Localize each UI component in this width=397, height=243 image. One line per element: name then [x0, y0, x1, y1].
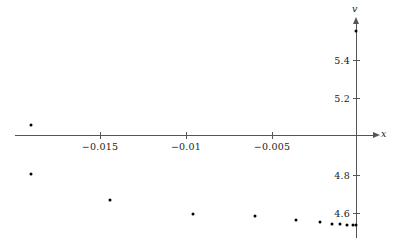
data-point — [346, 224, 349, 227]
data-point — [192, 213, 195, 216]
y-axis-label: v — [352, 3, 357, 14]
x-tick-mark — [100, 132, 101, 139]
x-tick-mark — [186, 132, 187, 139]
x-axis-line — [15, 135, 375, 136]
y-tick-label: 4.6 — [330, 208, 350, 219]
x-axis-label: x — [381, 128, 386, 139]
data-point — [109, 199, 112, 202]
scatter-plot-figure: x v −0.015 −0.01 −0.005 5.4 5.2 4.8 4.6 — [0, 0, 397, 243]
data-point — [30, 173, 33, 176]
data-point — [339, 223, 342, 226]
y-tick-label: 5.4 — [330, 55, 350, 66]
y-tick-label: 5.2 — [330, 93, 350, 104]
x-tick-label: −0.005 — [254, 141, 290, 152]
y-tick-mark — [353, 98, 360, 99]
data-point — [331, 223, 334, 226]
y-axis-line — [356, 22, 357, 238]
y-axis-arrowhead — [353, 17, 359, 24]
y-tick-label: 4.8 — [330, 170, 350, 181]
data-point — [355, 224, 358, 227]
x-tick-label: −0.01 — [171, 141, 201, 152]
data-point — [295, 219, 298, 222]
y-tick-mark — [353, 213, 360, 214]
data-point — [30, 124, 33, 127]
y-tick-mark — [353, 60, 360, 61]
x-axis-arrowhead — [373, 132, 380, 138]
data-point — [319, 221, 322, 224]
x-tick-mark — [272, 132, 273, 139]
data-point — [254, 215, 257, 218]
x-tick-label: −0.015 — [82, 141, 118, 152]
data-point — [355, 30, 358, 33]
y-tick-mark — [353, 175, 360, 176]
